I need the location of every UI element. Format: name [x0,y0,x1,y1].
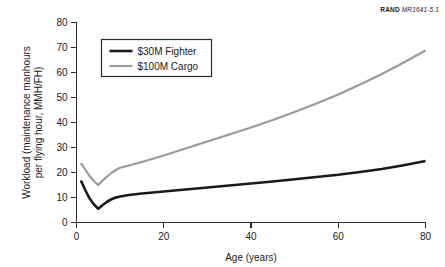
figure-identifier: RAND MR1641-5.1 [380,7,439,14]
y-axis-tick-label: 0 [62,217,68,228]
y-axis-ticks [71,23,77,223]
x-axis-tick-label: 20 [158,231,170,242]
y-axis-tick-labels: 01020304050607080 [56,17,68,228]
x-axis-ticks [77,223,426,229]
y-axis-tick-label: 20 [56,167,68,178]
legend-label: $100M Cargo [138,61,199,72]
y-axis-tick-label: 60 [56,67,68,78]
x-axis-title: Age (years) [225,252,277,263]
line-chart: 020406080 01020304050607080 $30M Fighter… [0,0,445,267]
series-line [81,161,426,209]
x-axis-tick-label: 40 [245,231,257,242]
y-axis-tick-label: 70 [56,42,68,53]
figure-identifier-org: RAND [380,6,399,13]
figure-container: RAND MR1641-5.1 020406080 01020304050607… [0,0,445,267]
y-axis-tick-label: 30 [56,142,68,153]
legend-label: $30M Fighter [138,46,198,57]
figure-identifier-number: MR1641-5.1 [402,6,439,13]
y-axis-tick-label: 40 [56,117,68,128]
chart-legend: $30M Fighter$100M Cargo [102,40,212,77]
x-axis-tick-labels: 020406080 [74,231,432,242]
y-axis-title: Workload (maintenance manhoursper flying… [21,46,44,199]
y-axis-title-line: per flying hour, MMH/FH) [33,67,44,179]
y-axis-tick-label: 10 [56,192,68,203]
chart-axis-titles: Age (years)Workload (maintenance manhour… [21,46,277,262]
x-axis-tick-label: 80 [420,231,432,242]
y-axis-title-line: Workload (maintenance manhours [21,46,32,199]
x-axis-tick-label: 60 [333,231,345,242]
y-axis-tick-label: 50 [56,92,68,103]
y-axis-tick-label: 80 [56,17,68,28]
x-axis-tick-label: 0 [74,231,80,242]
